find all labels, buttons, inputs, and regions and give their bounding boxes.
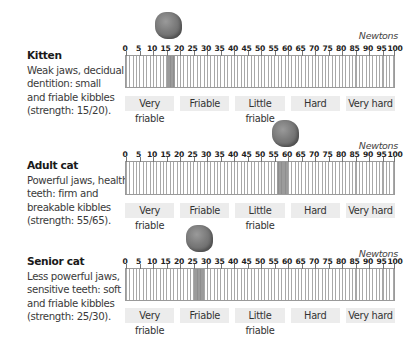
tick-label: 100 [388, 257, 403, 266]
category-label: Hard [291, 308, 340, 323]
tick-label: 55 [269, 257, 279, 266]
tick-label: 55 [269, 150, 279, 159]
tick-label: 65 [296, 44, 306, 53]
tick-label: 25 [188, 150, 198, 159]
tick-labels: 0510152025303540455055606570758085909510… [125, 44, 395, 54]
tick-label: 100 [388, 44, 403, 53]
category-label: Friable [180, 308, 229, 323]
category-label: Little friable [235, 308, 284, 323]
tick-label: 60 [282, 150, 292, 159]
major-tick [221, 264, 222, 269]
major-tick [394, 157, 395, 162]
major-tick [288, 157, 289, 162]
major-tick [315, 264, 316, 269]
tick-labels: 0510152025303540455055606570758085909510… [125, 257, 395, 267]
tick-label: 25 [188, 44, 198, 53]
tick-label: 75 [323, 44, 333, 53]
major-tick [302, 264, 303, 269]
scale-bar [125, 268, 395, 301]
major-tick [180, 157, 181, 162]
major-tick [342, 51, 343, 56]
tick-labels: 0510152025303540455055606570758085909510… [125, 150, 395, 160]
major-tick [194, 51, 195, 56]
tick-label: 20 [174, 257, 184, 266]
major-tick [342, 157, 343, 162]
major-tick [234, 51, 235, 56]
tick-label: 50 [255, 150, 265, 159]
description-line: and friable kibbles [27, 91, 132, 105]
major-tick [248, 51, 249, 56]
tick-label: 40 [228, 257, 238, 266]
major-tick [207, 264, 208, 269]
kibble-image [186, 225, 213, 252]
tick-label: 55 [269, 44, 279, 53]
category-label: Very hard [346, 308, 395, 323]
major-tick [140, 51, 141, 56]
description-line: Less powerful jaws, [27, 270, 132, 284]
panel-title: Senior cat [27, 255, 132, 269]
major-tick [180, 264, 181, 269]
tick-label: 10 [147, 150, 157, 159]
tick-label: 35 [215, 150, 225, 159]
panel-senior-cat: Newtons Senior cat Less powerful jaws, s… [0, 212, 420, 342]
strength-highlight [194, 269, 205, 300]
major-tick [315, 51, 316, 56]
tick-label: 35 [215, 44, 225, 53]
major-tick [329, 51, 330, 56]
major-tick [126, 264, 127, 269]
major-tick [207, 51, 208, 56]
panel-title: Kitten [27, 49, 132, 63]
major-tick [369, 264, 370, 269]
tick-label: 70 [309, 150, 319, 159]
tick-label: 80 [336, 257, 346, 266]
kibble-image [155, 12, 182, 39]
major-tick [383, 264, 384, 269]
major-tick [342, 264, 343, 269]
major-tick [126, 157, 127, 162]
tick-label: 65 [296, 257, 306, 266]
major-tick [369, 157, 370, 162]
strength-highlight [167, 56, 175, 87]
tick-label: 30 [201, 150, 211, 159]
scale-bar [125, 55, 395, 88]
tick-label: 45 [242, 257, 252, 266]
tick-label: 90 [363, 44, 373, 53]
scale-bar [125, 161, 395, 195]
major-tick [248, 157, 249, 162]
major-tick [356, 157, 357, 162]
major-tick [315, 157, 316, 162]
tick-label: 25 [188, 257, 198, 266]
major-tick [288, 264, 289, 269]
tick-label: 50 [255, 257, 265, 266]
strength-highlight [277, 162, 288, 194]
major-tick [140, 157, 141, 162]
tick-label: 20 [174, 44, 184, 53]
major-tick [383, 51, 384, 56]
major-tick [167, 264, 168, 269]
tick-label: 10 [147, 257, 157, 266]
tick-label: 60 [282, 257, 292, 266]
major-tick [248, 264, 249, 269]
tick-label: 70 [309, 257, 319, 266]
major-tick [126, 51, 127, 56]
major-tick [207, 157, 208, 162]
tick-label: 85 [350, 150, 360, 159]
major-tick [140, 264, 141, 269]
tick-label: 80 [336, 44, 346, 53]
major-tick [153, 264, 154, 269]
tick-label: 15 [161, 150, 171, 159]
major-tick [221, 157, 222, 162]
major-tick [261, 51, 262, 56]
description: Senior cat Less powerful jaws, sensitive… [27, 255, 132, 324]
major-tick [329, 157, 330, 162]
tick-label: 15 [161, 44, 171, 53]
major-tick [261, 157, 262, 162]
major-tick [275, 51, 276, 56]
tick-label: 20 [174, 150, 184, 159]
major-tick [288, 51, 289, 56]
tick-label: 75 [323, 150, 333, 159]
tick-label: 100 [388, 150, 403, 159]
panel-adult-cat: Newtons Adult cat Powerful jaws, healthy… [0, 108, 420, 223]
tick-label: 95 [377, 150, 387, 159]
tick-label: 40 [228, 150, 238, 159]
